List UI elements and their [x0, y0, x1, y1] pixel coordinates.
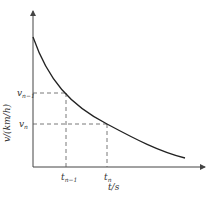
velocity-time-chart: vn−1 vn tn−1 tn t/s v/(km/h): [0, 0, 219, 201]
x-tick-tn-1: tn−1: [61, 172, 77, 183]
x-axis-label: t/s: [108, 182, 120, 192]
y-tick-vn: vn: [19, 119, 28, 130]
guide-lines: [33, 93, 107, 167]
y-tick-vn-1: vn−1: [17, 88, 35, 99]
velocity-curve: [33, 37, 185, 158]
y-axis-label: v/(km/h): [2, 104, 12, 142]
